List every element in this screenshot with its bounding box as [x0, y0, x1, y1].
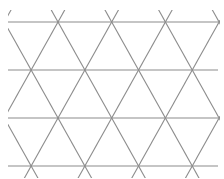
diagonal-line-descending — [35, 0, 158, 179]
diagonal-line-descending — [0, 0, 104, 179]
horizontal-lines — [8, 22, 218, 166]
diagonal-line-ascending — [0, 0, 81, 179]
diagonal-lines — [0, 0, 224, 179]
diagonal-line-ascending — [12, 0, 135, 179]
diagonal-line-descending — [88, 0, 211, 179]
triangle-lattice-diagram — [0, 0, 224, 179]
diagonal-line-ascending — [66, 0, 189, 179]
diagonal-line-ascending — [120, 0, 224, 179]
diagonal-line-descending — [142, 0, 224, 179]
